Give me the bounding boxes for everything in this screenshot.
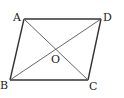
vertex-label-b: B bbox=[0, 79, 8, 92]
vertex-label-a: A bbox=[12, 11, 22, 24]
intersection-label-o: O bbox=[51, 53, 60, 66]
parallelogram-diagram: A D B C O bbox=[0, 0, 124, 98]
side-dc bbox=[88, 19, 101, 80]
diagonal-bd bbox=[10, 19, 101, 80]
vertex-label-d: D bbox=[103, 11, 112, 24]
vertex-label-c: C bbox=[89, 80, 97, 93]
side-ba bbox=[10, 19, 24, 80]
